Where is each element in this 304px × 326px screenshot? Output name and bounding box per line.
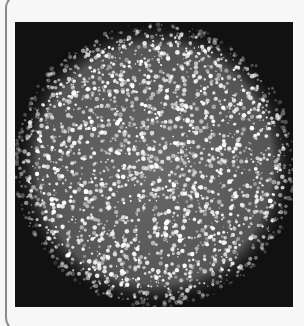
speckle-field bbox=[15, 22, 293, 307]
micrograph-image bbox=[15, 22, 293, 307]
